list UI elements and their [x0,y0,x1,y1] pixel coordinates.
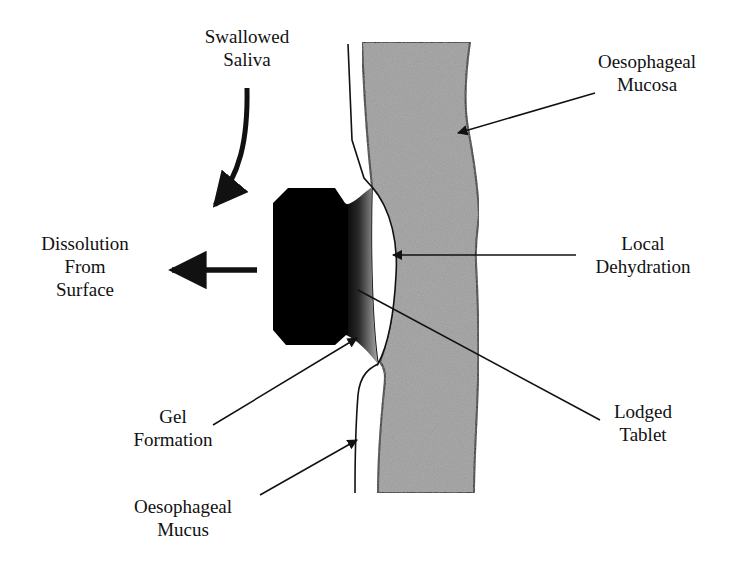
mucus-pointer [260,440,357,495]
label-swallowed-saliva: Swallowed Saliva [186,25,308,71]
gel-pointer [213,338,357,425]
label-lodged-tablet: Lodged Tablet [588,400,698,446]
mucosa-pointer [458,93,595,133]
label-oesophageal-mucus: Oesophageal Mucus [118,495,248,541]
label-local-dehydration: Local Dehydration [578,232,708,278]
label-gel-formation: Gel Formation [118,405,228,451]
label-oesophageal-mucosa: Oesophageal Mucosa [582,50,712,96]
lodged-tablet-shape [273,188,348,345]
saliva-flow-arrow [215,88,247,205]
label-dissolution-from-surface: Dissolution From Surface [30,232,140,301]
